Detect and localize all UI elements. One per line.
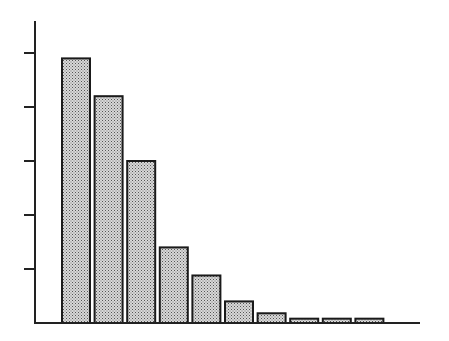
bar-4 [160, 247, 188, 323]
bar-7 [258, 313, 286, 323]
bar-5 [192, 275, 220, 323]
bar-1 [62, 58, 90, 323]
bar-6 [225, 301, 253, 323]
bar-3 [127, 161, 155, 323]
bar-2 [95, 96, 123, 323]
y-ticks [24, 53, 35, 269]
bar-chart [0, 0, 449, 341]
bars-group [62, 58, 383, 323]
